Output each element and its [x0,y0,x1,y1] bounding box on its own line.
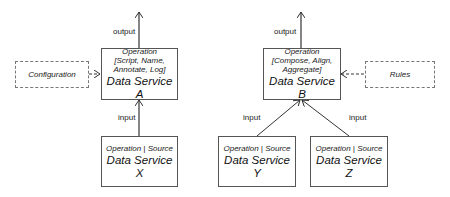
output-label-a: output [113,27,135,36]
input-label-z: input [349,113,366,122]
data-service-x-node: Operation | Source Data Service X [101,136,178,187]
data-service-z-node: Operation | Source Data Service Z [310,136,388,187]
input-label-a: input [118,113,135,122]
operation-list-line1: [Compose, Align, [272,56,333,65]
service-name: Data Service B [264,75,340,101]
operation-source-label: Operation | Source [106,144,173,153]
service-name: Data Service Z [311,154,387,180]
operation-list-line2: Aggregate] [282,65,321,74]
operation-list-line2: Annotate, Log] [113,65,165,74]
service-name: Data Service Y [219,154,295,180]
rules-node: Rules [365,61,435,88]
operation-title: Operation [122,47,157,56]
data-service-a-node: Operation [Script, Name, Annotate, Log] … [101,48,178,100]
service-name: Data Service A [102,75,177,101]
output-label-b: output [274,27,296,36]
operation-list-line1: [Script, Name, [114,56,165,65]
operation-source-label: Operation | Source [315,144,382,153]
configuration-label: Configuration [28,70,76,79]
operation-title: Operation [284,47,319,56]
configuration-node: Configuration [15,61,89,88]
data-service-b-node: Operation [Compose, Align, Aggregate] Da… [263,48,341,100]
operation-source-label: Operation | Source [223,144,290,153]
input-arrow-y-to-b [257,100,300,136]
input-label-y: input [243,113,260,122]
rules-label: Rules [390,70,410,79]
input-arrow-z-to-b [302,100,349,136]
data-service-y-node: Operation | Source Data Service Y [218,136,296,187]
service-name: Data Service X [102,154,177,180]
